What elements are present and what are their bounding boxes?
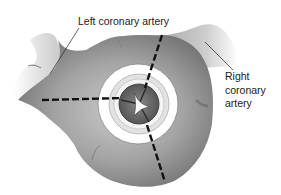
left-coronary-artery-label: Left coronary artery: [78, 15, 169, 29]
right-coronary-artery-label: Right coronary artery: [225, 70, 266, 111]
aortic-root-illustration: Left coronary artery Right coronary arte…: [0, 0, 281, 195]
right-coronary-label-line-2: coronary: [225, 84, 266, 98]
right-coronary-label-line-1: Right: [225, 70, 266, 84]
right-coronary-label-line-3: artery: [225, 97, 266, 111]
